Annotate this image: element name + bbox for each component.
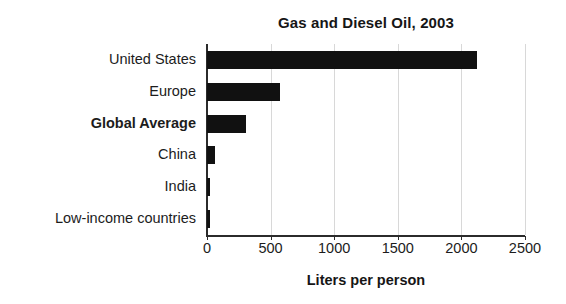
gridline-1500 bbox=[398, 44, 399, 235]
x-tick-label-2000: 2000 bbox=[431, 240, 491, 256]
bar-global-average bbox=[207, 115, 246, 133]
x-axis-title: Liters per person bbox=[207, 272, 525, 288]
y-axis-label-united-states: United States bbox=[0, 51, 201, 67]
y-axis-label-low-income-countries: Low-income countries bbox=[0, 210, 201, 226]
x-tick-mark-2000 bbox=[461, 236, 462, 240]
x-tick-label-1000: 1000 bbox=[304, 240, 364, 256]
bar-united-states bbox=[207, 51, 477, 69]
y-axis-label-china: China bbox=[0, 146, 201, 162]
x-tick-label-1500: 1500 bbox=[368, 240, 428, 256]
plot-area bbox=[207, 44, 525, 235]
x-tick-label-0: 0 bbox=[177, 240, 237, 256]
bar-low-income-countries bbox=[207, 210, 210, 228]
bar-europe bbox=[207, 83, 280, 101]
bar-row bbox=[207, 146, 525, 164]
y-axis-label-global-average: Global Average bbox=[0, 115, 201, 131]
gridline-500 bbox=[271, 44, 272, 235]
chart-figure: Gas and Diesel Oil, 2003 United StatesEu… bbox=[0, 0, 566, 304]
x-tick-mark-1000 bbox=[334, 236, 335, 240]
y-axis-label-india: India bbox=[0, 178, 201, 194]
x-tick-mark-2500 bbox=[525, 236, 526, 240]
bar-row bbox=[207, 115, 525, 133]
gridline-1000 bbox=[334, 44, 335, 235]
x-axis-line bbox=[206, 235, 525, 237]
bar-row bbox=[207, 83, 525, 101]
y-axis-label-europe: Europe bbox=[0, 83, 201, 99]
chart-title: Gas and Diesel Oil, 2003 bbox=[207, 14, 525, 31]
x-tick-label-500: 500 bbox=[241, 240, 301, 256]
bar-row bbox=[207, 51, 525, 69]
bar-china bbox=[207, 146, 215, 164]
x-tick-mark-0 bbox=[207, 236, 208, 240]
bar-row bbox=[207, 178, 525, 196]
bar-india bbox=[207, 178, 210, 196]
gridline-2000 bbox=[461, 44, 462, 235]
gridline-2500 bbox=[525, 44, 526, 235]
y-axis-category-labels: United StatesEuropeGlobal AverageChinaIn… bbox=[0, 0, 201, 304]
bar-row bbox=[207, 210, 525, 228]
x-tick-label-2500: 2500 bbox=[495, 240, 555, 256]
x-tick-mark-500 bbox=[271, 236, 272, 240]
x-tick-mark-1500 bbox=[398, 236, 399, 240]
